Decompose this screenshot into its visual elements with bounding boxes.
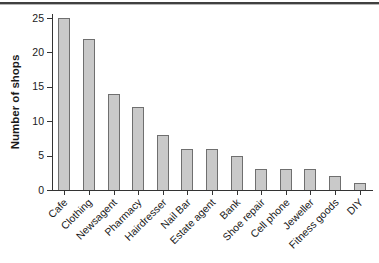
y-tick-label: 15	[18, 80, 44, 93]
top-rule-divider	[0, 2, 379, 5]
x-tick-mark	[114, 191, 115, 195]
bar	[132, 107, 144, 190]
bar	[108, 94, 120, 190]
y-tick-mark	[47, 190, 52, 191]
bar	[329, 176, 341, 190]
x-tick-mark	[286, 191, 287, 195]
x-tick-mark	[163, 191, 164, 195]
y-tick-mark	[47, 18, 52, 19]
y-axis-line	[52, 14, 53, 191]
y-tick-label: 0	[18, 184, 44, 197]
bar	[231, 156, 243, 190]
x-tick-mark	[64, 191, 65, 195]
y-tick-mark	[47, 52, 52, 53]
x-tick-mark	[89, 191, 90, 195]
bar	[304, 169, 316, 190]
bar	[157, 135, 169, 190]
x-tick-mark	[360, 191, 361, 195]
bar	[255, 169, 267, 190]
x-tick-mark	[310, 191, 311, 195]
y-tick-mark	[47, 121, 52, 122]
bar	[181, 149, 193, 190]
bar	[206, 149, 218, 190]
y-tick-label: 25	[18, 12, 44, 25]
shops-bar-chart: Number of shops 0510152025CafeClothingNe…	[0, 0, 379, 263]
bar	[280, 169, 292, 190]
y-tick-mark	[47, 156, 52, 157]
x-tick-mark	[261, 191, 262, 195]
x-tick-mark	[138, 191, 139, 195]
y-tick-mark	[47, 87, 52, 88]
x-tick-mark	[335, 191, 336, 195]
x-tick-mark	[212, 191, 213, 195]
y-axis-title: Number of shops	[9, 55, 21, 150]
x-tick-mark	[237, 191, 238, 195]
bar	[58, 18, 70, 190]
x-axis-label: DIY	[344, 196, 365, 217]
bar	[83, 39, 95, 190]
bar	[354, 183, 366, 190]
y-tick-label: 20	[18, 46, 44, 59]
x-tick-mark	[187, 191, 188, 195]
y-tick-label: 5	[18, 149, 44, 162]
y-tick-label: 10	[18, 115, 44, 128]
